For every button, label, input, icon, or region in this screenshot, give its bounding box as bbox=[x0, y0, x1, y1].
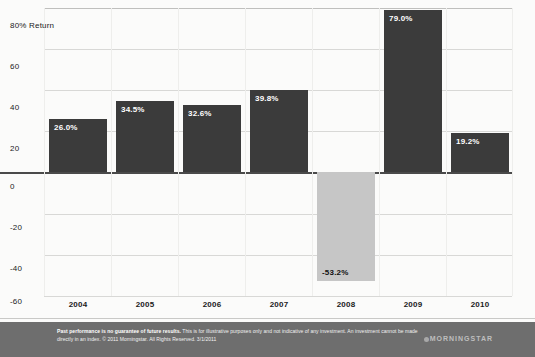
y-axis-label-neg60: -60 bbox=[10, 297, 22, 306]
gridline-neg40 bbox=[44, 255, 512, 256]
bar-2010[interactable]: 19.2% bbox=[451, 133, 509, 173]
gridline-neg60 bbox=[44, 296, 512, 297]
x-axis-label-2010: 2010 bbox=[451, 300, 509, 310]
x-axis-label-2005: 2005 bbox=[116, 300, 174, 310]
y-axis-label-0: 0 bbox=[10, 182, 15, 191]
slot-separator bbox=[245, 8, 246, 296]
bar-2007[interactable]: 39.8% bbox=[250, 90, 308, 172]
x-axis-rule bbox=[0, 318, 535, 319]
disclosure-text: Past performance is no guarantee of futu… bbox=[57, 328, 427, 343]
morningstar-mark-icon bbox=[424, 337, 429, 342]
slot-separator bbox=[379, 8, 380, 296]
slot-separator bbox=[446, 8, 447, 296]
bar-2006[interactable]: 32.6% bbox=[183, 105, 241, 172]
bar-label-2009: 79.0% bbox=[389, 14, 413, 23]
x-axis-label-2004: 2004 bbox=[49, 300, 107, 310]
y-axis-label-neg40: -40 bbox=[10, 264, 22, 273]
x-axis-label-2007: 2007 bbox=[250, 300, 308, 310]
bar-2009[interactable]: 79.0% bbox=[384, 10, 442, 173]
slot-separator bbox=[111, 8, 112, 296]
brand-text: MORNINGSTAR bbox=[430, 335, 493, 342]
x-axis-label-2006: 2006 bbox=[183, 300, 241, 310]
bar-2005[interactable]: 34.5% bbox=[116, 101, 174, 172]
bar-2008[interactable]: -53.2% bbox=[317, 172, 375, 281]
morningstar-logo: MORNINGSTAR bbox=[424, 335, 493, 342]
y-axis-label-20: 20 bbox=[10, 144, 19, 153]
bar-label-2010: 19.2% bbox=[456, 137, 480, 146]
bar-label-2008: -53.2% bbox=[322, 268, 349, 277]
slot-separator bbox=[312, 8, 313, 296]
bar-label-2005: 34.5% bbox=[121, 105, 145, 114]
y-axis-label-60: 60 bbox=[10, 62, 19, 71]
chart-screenshot: 26.0% 34.5% 32.6% 39.8% -53.2% 79.0% bbox=[0, 0, 535, 357]
disclosure-footer: Past performance is no guarantee of futu… bbox=[0, 322, 535, 357]
y-axis-label-80: 80% Return bbox=[10, 21, 54, 30]
slot-separator bbox=[512, 8, 513, 296]
gridline-neg20 bbox=[44, 214, 512, 215]
x-axis-label-2008: 2008 bbox=[317, 300, 375, 310]
gridline-zero bbox=[0, 172, 512, 174]
slot-separator bbox=[178, 8, 179, 296]
disclosure-lead: Past performance is no guarantee of futu… bbox=[57, 328, 181, 334]
bar-label-2004: 26.0% bbox=[54, 123, 78, 132]
slot-separator bbox=[44, 8, 45, 296]
plot-area: 26.0% 34.5% 32.6% 39.8% -53.2% 79.0% bbox=[44, 8, 512, 296]
y-axis-label-neg20: -20 bbox=[10, 223, 22, 232]
y-axis-label-40: 40 bbox=[10, 103, 19, 112]
bar-label-2006: 32.6% bbox=[188, 109, 212, 118]
x-axis: 2004 2005 2006 2007 2008 2009 2010 bbox=[44, 300, 512, 318]
x-axis-label-2009: 2009 bbox=[384, 300, 442, 310]
chart-plot-region: 26.0% 34.5% 32.6% 39.8% -53.2% 79.0% bbox=[0, 0, 535, 322]
bar-2004[interactable]: 26.0% bbox=[49, 119, 107, 173]
bar-label-2007: 39.8% bbox=[255, 94, 279, 103]
